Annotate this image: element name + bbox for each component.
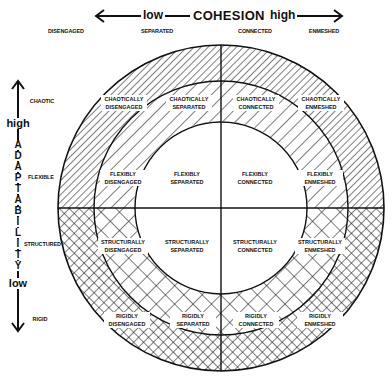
cell-flexibly-connected: FLEXIBLY CONNECTED (232, 170, 278, 186)
cell-chaotically-enmeshed: CHAOTICALLY ENMESHED (298, 95, 344, 111)
adaptability-letter: L (11, 228, 25, 238)
adaptability-level-rigid: RIGID (29, 315, 51, 323)
cell-line2: ENMESHED (298, 178, 342, 186)
cell-line2: SEPARATED (165, 178, 209, 186)
cell-rigidly-connected: RIGIDLY CONNECTED (233, 312, 279, 328)
cell-rigidly-separated: RIGIDLY SEPARATED (170, 312, 216, 328)
cell-line1: CHAOTICALLY (234, 95, 278, 103)
cell-line1: CHAOTICALLY (299, 95, 343, 103)
cell-line1: FLEXIBLY (165, 170, 209, 178)
cell-line2: CONNECTED (231, 246, 279, 254)
cell-structurally-disengaged: STRUCTURALLY DISENGAGED (98, 238, 148, 254)
adaptability-level-flexible: FLEXIBLE (26, 173, 56, 181)
cohesion-level-connected: CONNECTED (233, 27, 277, 35)
adaptability-letter: A (11, 140, 25, 150)
adaptability-letter: A (11, 195, 25, 205)
cohesion-level-separated: SEPARATED (135, 27, 179, 35)
cell-line2: DISENGAGED (99, 246, 147, 254)
cell-line1: FLEXIBLY (298, 170, 342, 178)
cell-line1: CHAOTICALLY (102, 95, 146, 103)
cell-flexibly-disengaged: FLEXIBLY DISENGAGED (100, 170, 146, 186)
cell-structurally-connected: STRUCTURALLY CONNECTED (230, 238, 280, 254)
adaptability-letter: B (11, 206, 25, 216)
cell-flexibly-separated: FLEXIBLY SEPARATED (164, 170, 210, 186)
cell-line1: RIGIDLY (234, 312, 278, 320)
cell-chaotically-separated: CHAOTICALLY SEPARATED (166, 95, 212, 111)
cell-chaotically-disengaged: CHAOTICALLY DISENGAGED (101, 95, 147, 111)
cell-line2: SEPARATED (167, 103, 211, 111)
cell-flexibly-enmeshed: FLEXIBLY ENMESHED (297, 170, 343, 186)
cell-line2: ENMESHED (299, 103, 343, 111)
cell-line2: SEPARATED (171, 320, 215, 328)
adaptability-high-label: high (3, 118, 33, 129)
adaptability-letter: D (11, 151, 25, 161)
cell-line1: STRUCTURALLY (163, 238, 211, 246)
adaptability-level-chaotic: CHAOTIC (27, 97, 57, 105)
cell-line1: RIGIDLY (105, 312, 149, 320)
cohesion-low-label: low (141, 9, 165, 21)
cohesion-level-disengaged: DISENGAGED (44, 27, 88, 35)
cell-line1: CHAOTICALLY (167, 95, 211, 103)
cohesion-level-enmeshed: ENMESHED (302, 27, 346, 35)
cohesion-title: COHESION (190, 9, 268, 22)
cell-line1: STRUCTURALLY (99, 238, 147, 246)
cell-structurally-separated: STRUCTURALLY SEPARATED (162, 238, 212, 254)
adaptability-letter: P (11, 173, 25, 183)
cell-structurally-enmeshed: STRUCTURALLY ENMESHED (295, 238, 345, 254)
adaptability-level-structured: STRUCTURED (24, 240, 60, 248)
cell-line1: FLEXIBLY (233, 170, 277, 178)
cell-line1: STRUCTURALLY (231, 238, 279, 246)
cell-line1: STRUCTURALLY (296, 238, 344, 246)
cell-line2: SEPARATED (163, 246, 211, 254)
cell-line2: CONNECTED (233, 178, 277, 186)
cell-rigidly-disengaged: RIGIDLY DISENGAGED (104, 312, 150, 328)
cell-line2: CONNECTED (234, 103, 278, 111)
cell-line2: DISENGAGED (105, 320, 149, 328)
cell-line1: RIGIDLY (298, 312, 342, 320)
cell-line1: FLEXIBLY (101, 170, 145, 178)
adaptability-letter: I (11, 217, 25, 227)
adaptability-low-label: low (3, 278, 33, 289)
cell-line2: ENMESHED (296, 246, 344, 254)
circumplex-model-diagram: low COHESION high DISENGAGED SEPARATED C… (0, 0, 392, 383)
cell-line2: DISENGAGED (102, 103, 146, 111)
cell-line1: RIGIDLY (171, 312, 215, 320)
cell-chaotically-connected: CHAOTICALLY CONNECTED (233, 95, 279, 111)
cell-rigidly-enmeshed: RIGIDLY ENMESHED (297, 312, 343, 328)
adaptability-letter: T (11, 184, 25, 194)
cell-line2: DISENGAGED (101, 178, 145, 186)
adaptability-letter: Y (11, 261, 25, 271)
cell-line2: ENMESHED (298, 320, 342, 328)
adaptability-letter: T (11, 250, 25, 260)
cohesion-high-label: high (268, 9, 297, 21)
adaptability-letter: I (11, 239, 25, 249)
cell-line2: CONNECTED (234, 320, 278, 328)
adaptability-letter: A (11, 162, 25, 172)
